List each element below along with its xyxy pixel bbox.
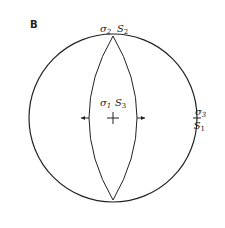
svg-text:S1: S1: [194, 120, 205, 133]
svg-text:σ1: σ1: [100, 97, 111, 110]
arrow-right-icon: [137, 116, 145, 120]
stereonet-diagram: B σ2 S2 σ1 S3 σ3 S1: [0, 0, 225, 228]
label-center: σ1 S3: [100, 97, 126, 110]
svg-text:σ2: σ2: [100, 23, 112, 36]
svg-text:S3: S3: [115, 97, 126, 110]
panel-label: B: [30, 19, 38, 30]
center-cross-icon: [107, 112, 119, 124]
arrow-left-icon: [81, 116, 89, 120]
label-right: σ3 S1: [194, 106, 207, 133]
